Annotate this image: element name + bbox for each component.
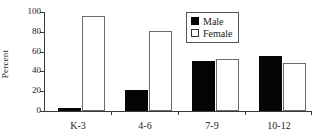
bar-male-10-12 bbox=[259, 56, 282, 111]
bar-male-7-9 bbox=[192, 61, 215, 111]
bar-female-10-12 bbox=[283, 63, 306, 111]
legend-label-male: Male bbox=[203, 16, 224, 27]
legend: Male Female bbox=[186, 12, 239, 43]
y-tick-60: 60 bbox=[44, 52, 45, 53]
bar-chart: Percent 0 20 40 60 80 100 bbox=[0, 0, 321, 139]
bar-female-4-6 bbox=[149, 31, 172, 111]
filled-square-icon bbox=[191, 17, 199, 25]
y-tick-100: 100 bbox=[44, 12, 45, 13]
x-tick-1 bbox=[111, 111, 112, 115]
x-label-10-12: 10-12 bbox=[251, 120, 307, 132]
y-tick-label-0: 0 bbox=[37, 105, 42, 116]
outlined-square-icon bbox=[191, 29, 199, 37]
legend-item-female: Female bbox=[191, 27, 232, 39]
y-tick-label-100: 100 bbox=[28, 6, 42, 17]
bar-male-4-6 bbox=[125, 90, 148, 111]
y-tick-label-80: 80 bbox=[32, 26, 41, 37]
bar-female-k-3 bbox=[82, 16, 105, 111]
x-tick-2 bbox=[178, 111, 179, 115]
x-tick-4 bbox=[311, 111, 312, 115]
legend-label-female: Female bbox=[203, 28, 232, 39]
y-tick-label-20: 20 bbox=[32, 85, 41, 96]
y-tick-20: 20 bbox=[44, 91, 45, 92]
y-tick-40: 40 bbox=[44, 71, 45, 72]
x-tick-3 bbox=[245, 111, 246, 115]
y-axis-title: Percent bbox=[0, 36, 10, 92]
x-label-7-9: 7-9 bbox=[184, 120, 240, 132]
bar-male-k-3 bbox=[58, 108, 81, 111]
y-tick-0: 0 bbox=[44, 111, 45, 112]
y-tick-label-60: 60 bbox=[32, 46, 41, 57]
legend-item-male: Male bbox=[191, 15, 232, 27]
x-label-k-3: K-3 bbox=[50, 120, 106, 132]
bar-female-7-9 bbox=[216, 59, 239, 111]
y-tick-80: 80 bbox=[44, 32, 45, 33]
plot-area: 0 20 40 60 80 100 bbox=[44, 12, 312, 111]
y-axis-line bbox=[44, 12, 45, 111]
y-tick-label-40: 40 bbox=[32, 65, 41, 76]
x-label-4-6: 4-6 bbox=[117, 120, 173, 132]
